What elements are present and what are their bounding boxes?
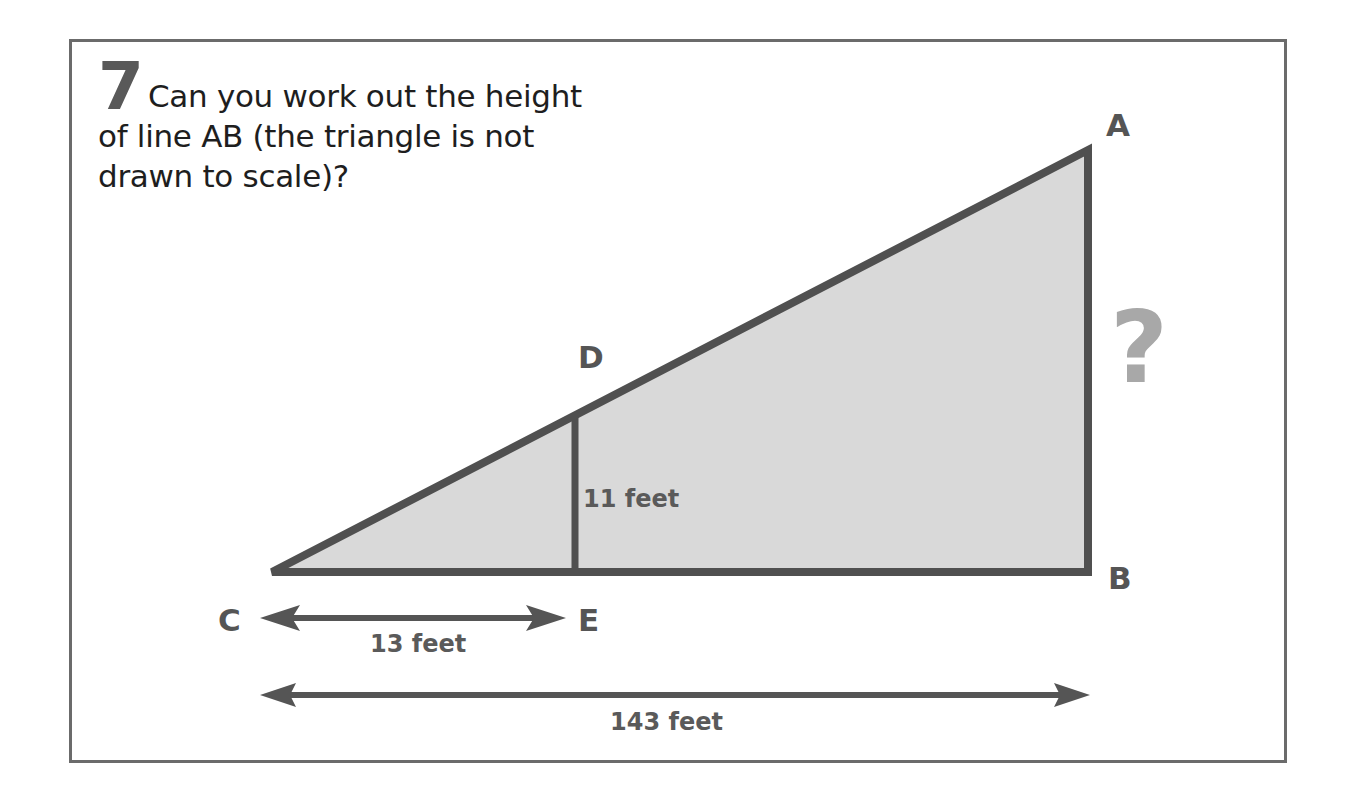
triangle-cab [272, 150, 1088, 572]
measurement-cb: 143 feet [610, 708, 723, 736]
vertex-label-c: C [218, 602, 241, 638]
dimension-arrow-ce [260, 605, 566, 631]
vertex-label-e: E [578, 602, 599, 638]
vertex-label-a: A [1106, 107, 1130, 143]
vertex-label-d: D [578, 339, 604, 375]
measurement-ce: 13 feet [370, 630, 466, 658]
dimension-arrow-cb [260, 683, 1090, 707]
measurement-de: 11 feet [583, 485, 679, 513]
triangle-diagram: A B C D E ? 11 feet 13 feet 143 feet [0, 0, 1354, 805]
vertex-label-b: B [1108, 560, 1132, 596]
unknown-height-question-mark: ? [1110, 289, 1168, 406]
